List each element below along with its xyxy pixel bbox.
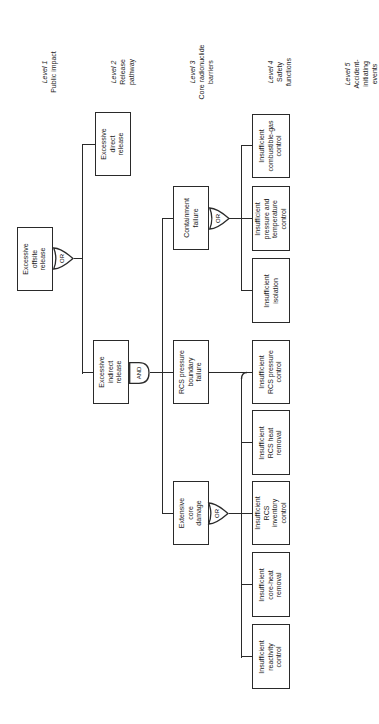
- connector-isolation: [241, 290, 252, 291]
- level-1-label: Level 1Public impact: [22, 51, 58, 93]
- node-label: Insufficient reactivity control: [258, 640, 284, 673]
- level-desc: Public impact: [50, 51, 57, 93]
- level-title: Level 3: [188, 45, 197, 100]
- level-3-label: Level 3Core radionuclide barriers: [170, 45, 215, 100]
- node-insufficient-pressure-temperature-control: Insufficient pressure and temperature co…: [252, 186, 290, 251]
- node-label: Insufficient pressure and temperature co…: [254, 198, 288, 239]
- svg-text:OR: OR: [59, 253, 65, 263]
- node-insufficient-combustible-gas-control: Insufficient combustible-gas control: [252, 114, 290, 178]
- node-label: Extensive core damage: [178, 498, 204, 528]
- or-gate-icon: OR: [53, 247, 75, 270]
- level-desc: Safety functions: [276, 58, 292, 86]
- level-title: Level 2: [109, 59, 118, 85]
- node-label: Excessive direct release: [100, 128, 126, 160]
- node-label: Insufficient combustible-gas control: [258, 121, 284, 172]
- node-containment-failure: Containment failure: [173, 186, 209, 250]
- node-insufficient-rcs-inventory-control: Insufficient RCS inventory control: [252, 481, 290, 545]
- connector-core-trunk: [241, 378, 242, 658]
- connector-reactivity: [241, 656, 252, 657]
- level-desc: Core radionuclide barriers: [198, 45, 214, 100]
- connector-core-gate: [229, 513, 252, 514]
- or-gate-icon: OR: [209, 207, 231, 230]
- or-gate-icon: OR: [208, 502, 230, 525]
- level-title: Level 4: [266, 58, 275, 86]
- node-extensive-core-damage: Extensive core damage: [173, 481, 209, 545]
- connector-and-gate: [150, 372, 173, 373]
- level-desc: Release pathway: [119, 59, 135, 85]
- level-desc: Accident- initiating events: [353, 59, 378, 88]
- node-excessive-offsite-release: Excessive offsite release: [17, 227, 53, 291]
- connector-containment: [162, 218, 173, 219]
- node-excessive-direct-release: Excessive direct release: [95, 112, 131, 176]
- node-label: Excessive offsite release: [22, 243, 48, 275]
- node-label: Containment failure: [183, 198, 200, 238]
- node-insufficient-reactivity-control: Insufficient reactivity control: [252, 624, 290, 689]
- node-insufficient-rcs-heat-removal: Insufficient RCS heat removal: [252, 410, 290, 475]
- node-insufficient-isolation: Insufficient isolation: [252, 258, 290, 323]
- node-insufficient-rcs-pressure-control: Insufficient RCS pressure control: [252, 340, 290, 404]
- node-insufficient-core-heat-removal: Insufficient core-heat removal: [252, 552, 290, 617]
- connector-containment-gate: [229, 218, 252, 219]
- svg-text:OR: OR: [215, 213, 221, 223]
- connector-indirect: [82, 372, 93, 373]
- node-label: Insufficient RCS inventory control: [254, 496, 288, 529]
- level-5-label: Level 5Accident- initiating events: [325, 59, 379, 88]
- connector-combustible: [241, 145, 252, 146]
- node-label: Insufficient isolation: [263, 274, 280, 307]
- node-label: Excessive indirect release: [98, 356, 124, 388]
- svg-text:AND: AND: [136, 366, 142, 379]
- connector-direct: [82, 144, 95, 145]
- node-excessive-indirect-release: Excessive indirect release: [93, 340, 129, 404]
- svg-text:OR: OR: [214, 508, 220, 518]
- connector-level2-3-trunk: [162, 218, 163, 514]
- level-title: Level 5: [343, 59, 352, 88]
- connector-core-damage: [162, 513, 173, 514]
- level-2-label: Level 2Release pathway: [91, 59, 136, 85]
- node-label: Insufficient RCS pressure control: [258, 350, 284, 394]
- node-label: RCS pressure boundary failure: [178, 350, 204, 394]
- connector-core-heat: [241, 584, 252, 585]
- node-label: Insufficient RCS heat removal: [258, 426, 284, 459]
- node-rcs-pressure-boundary-failure: RCS pressure boundary failure: [173, 340, 209, 404]
- level-4-label: Level 4Safety functions: [248, 58, 293, 86]
- node-label: Insufficient core-heat removal: [258, 568, 284, 601]
- connector-rcs-heat: [241, 442, 252, 443]
- and-gate-icon: AND: [129, 362, 151, 384]
- level-title: Level 1: [40, 51, 49, 93]
- connector-top-gate: [74, 258, 83, 259]
